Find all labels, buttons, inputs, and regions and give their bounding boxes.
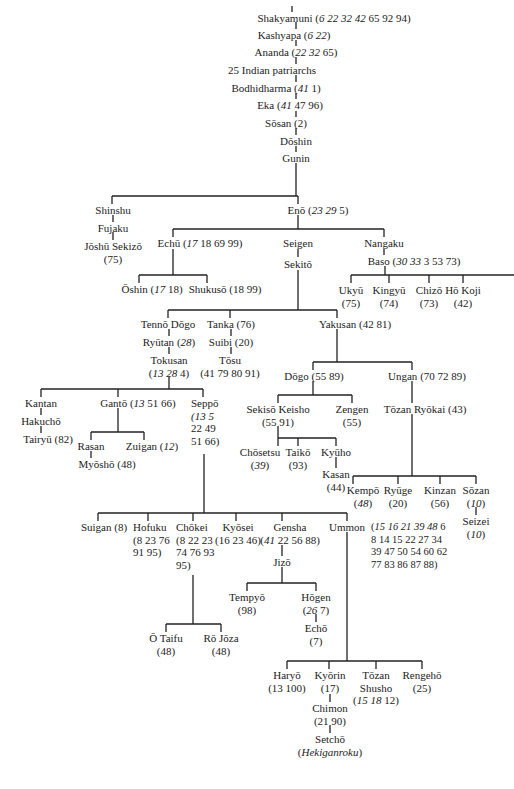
node-sosan: Sōsan (2) [265, 117, 307, 130]
node-chosetsu: Chōsetsu (39) [240, 446, 280, 471]
node-zengen: Zengen (55) [336, 403, 369, 428]
node-baso: Baso (30 33 3 53 73) [368, 255, 461, 268]
node-haryo: Haryō (13 100) [268, 669, 306, 694]
node-chimon: Chimon (21 90) [312, 702, 347, 727]
node-o-taifu: Ō Taifu (48) [149, 632, 183, 657]
node-sekiso-keisho: Sekisō Keisho (55 91) [246, 403, 309, 428]
node-oshin: Ōshin (17 18) [121, 283, 182, 296]
node-rasan: Rasan [78, 440, 105, 453]
node-tairyu: Tairyū (82) [23, 433, 73, 446]
node-echo: Echō (7) [305, 622, 328, 647]
node-kyuho: Kyūho [321, 446, 351, 459]
node-tanka: Tanka (76) [207, 318, 255, 331]
node-tempyo: Tempyō (98) [229, 591, 265, 616]
node-rengeho: Rengehō (25) [402, 669, 441, 694]
node-tosu: Tōsu (41 79 80 91) [200, 354, 260, 379]
node-shukuso: Shukusō (18 99) [189, 283, 262, 296]
node-echu: Echū (17 18 69 99) [158, 237, 243, 250]
node-kantan: Kantan [25, 397, 57, 410]
node-ungan: Ungan (70 72 89) [388, 370, 466, 383]
ummon-references: (15 16 21 39 48 6 8 14 15 22 27 34 39 47… [371, 521, 447, 571]
node-setcho: Setchō (Hekiganroku) [298, 733, 362, 758]
node-eka: Eka (41 47 96) [257, 99, 323, 112]
node-gensha: Gensha (41 22 56 88) [260, 521, 320, 546]
node-shinshu: Shinshu [95, 204, 130, 217]
node-sozan: Sōzan (10) [463, 484, 490, 509]
node-fujaku: Fujaku [98, 222, 129, 235]
node-jizo: Jizō [273, 556, 291, 569]
node-seizei: Seizei (10) [463, 515, 490, 540]
node-ummon: Ummon [329, 521, 365, 534]
node-indian-patriarchs: 25 Indian patriarchs [228, 64, 316, 77]
node-seppo: Seppō (13 5 22 49 51 66) [191, 397, 219, 447]
node-hogen: Hōgen (26 7) [301, 591, 330, 616]
node-taiko: Taikō (93) [286, 446, 311, 471]
node-kyosei: Kyōsei (16 23 46) [215, 521, 261, 546]
node-hakucho: Hakuchō [21, 415, 61, 428]
node-ryuge: Ryūge (20) [384, 484, 412, 509]
node-ganto: Gantō (13 51 66) [100, 397, 175, 410]
node-nangaku: Nangaku [364, 237, 404, 250]
node-hofuku: Hofuku (8 23 76 91 95) [133, 521, 170, 559]
node-tokusan: Tokusan (13 28 4) [149, 354, 189, 379]
node-kasan: Kasan (44) [322, 468, 350, 493]
node-tenno-dogo: Tennō Dōgo [141, 318, 196, 331]
node-myosho: Myōshō (48) [78, 458, 135, 471]
node-ryutan: Ryūtan (28) [143, 336, 195, 349]
node-bodhidharma: Bodhidharma (41 1) [231, 82, 320, 95]
node-kyorin: Kyōrin (17) [314, 669, 345, 694]
node-tozan-shusho: Tōzan Shusho (15 18 12) [353, 669, 399, 707]
node-ananda: Ananda (22 32 65) [255, 46, 338, 59]
node-zuigan: Zuigan (12) [126, 440, 178, 453]
node-dogo: Dōgo (55 89) [284, 370, 343, 383]
node-kinzan: Kinzan (56) [424, 484, 456, 509]
node-kempo: Kempō (48) [347, 484, 379, 509]
node-suigan: Suigan (8) [81, 521, 127, 534]
node-chizo: Chizō(73) [416, 284, 442, 309]
node-shakyamuni: Shakyamuni (6 22 32 42 65 92 94) [257, 12, 410, 25]
zen-lineage-diagram: Shakyamuni (6 22 32 42 65 92 94) Kashyap… [0, 0, 514, 789]
node-tozan-ryokai: Tōzan Ryōkai (43) [384, 403, 467, 416]
node-doshin: Dōshin [280, 135, 312, 148]
node-sekito: Sekitō [284, 258, 312, 271]
node-suibi: Suibi (20) [209, 336, 253, 349]
node-joshu-sekizo: Jōshū Sekizō (75) [84, 240, 142, 265]
node-ukyu: Ukyū(75) [339, 284, 363, 309]
node-gunin: Gunin [282, 152, 310, 165]
node-ro-joza: Rō Jōza (48) [203, 632, 238, 657]
node-eno: Enō (23 29 5) [288, 204, 349, 217]
node-hokoji: Hō Koji(42) [445, 284, 481, 309]
node-chokei: Chōkei (8 22 23 74 76 93 95) [176, 521, 215, 571]
node-kingyu: Kingyū(74) [373, 284, 406, 309]
node-yakusan: Yakusan (42 81) [319, 318, 391, 331]
node-seigen: Seigen [283, 237, 313, 250]
node-kashyapa: Kashyapa (6 22) [258, 29, 331, 42]
